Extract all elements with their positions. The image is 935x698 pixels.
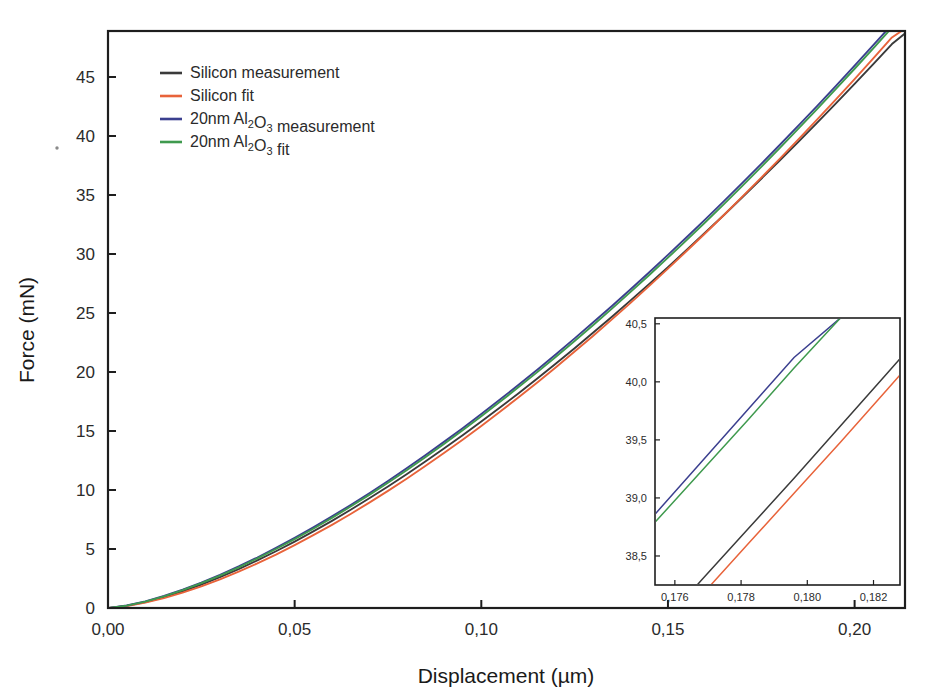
inset-x-tick-label: 0,182 <box>860 591 888 603</box>
x-tick-label: 0,05 <box>278 620 311 639</box>
y-tick-label: 15 <box>76 422 95 441</box>
inset-y-tick-label: 38,5 <box>626 550 647 562</box>
y-tick-label: 45 <box>76 68 95 87</box>
y-tick-label: 25 <box>76 304 95 323</box>
y-tick-label: 10 <box>76 481 95 500</box>
y-tick-label: 35 <box>76 186 95 205</box>
y-tick-label: 20 <box>76 363 95 382</box>
inset-background <box>655 318 900 585</box>
y-tick-label: 5 <box>86 540 95 559</box>
x-tick-label: 0,00 <box>91 620 124 639</box>
legend-label-silicon-fit: Silicon fit <box>190 87 255 104</box>
inset-y-tick-label: 40,5 <box>626 318 647 330</box>
x-tick-label: 0,20 <box>838 620 871 639</box>
y-tick-label: 30 <box>76 245 95 264</box>
scan-speck <box>55 146 58 149</box>
inset-x-tick-label: 0,176 <box>661 591 689 603</box>
inset-x-tick-label: 0,178 <box>727 591 755 603</box>
x-axis-title: Displacement (µm) <box>418 664 595 687</box>
inset-y-tick-label: 40,0 <box>626 376 647 388</box>
inset-y-tick-label: 39,0 <box>626 492 647 504</box>
y-tick-label: 0 <box>86 599 95 618</box>
x-tick-label: 0,15 <box>651 620 684 639</box>
x-tick-label: 0,10 <box>465 620 498 639</box>
legend-label-silicon-measurement: Silicon measurement <box>190 64 340 81</box>
force-displacement-figure: 0510152025303540450,000,050,100,150,20 D… <box>0 0 935 698</box>
y-tick-label: 40 <box>76 127 95 146</box>
inset-x-tick-label: 0,180 <box>794 591 822 603</box>
y-axis-title: Force (mN) <box>15 277 38 383</box>
inset-y-tick-label: 39,5 <box>626 434 647 446</box>
